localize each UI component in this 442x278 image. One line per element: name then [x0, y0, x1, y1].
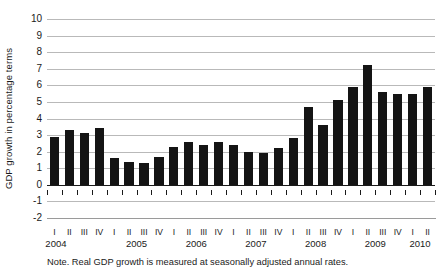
y-tick-label: 9 — [36, 31, 42, 41]
year-label: 2010 — [410, 238, 431, 250]
year-label: 2004 — [45, 238, 66, 250]
bar — [110, 158, 119, 185]
quarter-label: II — [365, 227, 370, 238]
quarter-label: I — [411, 227, 413, 238]
y-tick-label: 0 — [36, 180, 42, 190]
x-tick — [151, 190, 152, 195]
x-tick — [286, 190, 287, 195]
x-tick — [226, 190, 227, 195]
y-tick-label: 2 — [36, 147, 42, 157]
plot-area: 109876543210-1-2 — [47, 19, 435, 218]
quarter-label: II — [246, 227, 251, 238]
x-tick — [137, 190, 138, 195]
quarter-label: I — [232, 227, 234, 238]
y-tick-label: 8 — [36, 47, 42, 57]
bar — [318, 125, 327, 185]
x-tick — [256, 190, 257, 195]
bar — [169, 147, 178, 185]
bar — [274, 148, 283, 184]
x-tick — [196, 190, 197, 195]
x-tick — [331, 190, 332, 195]
year-label: 2008 — [305, 238, 326, 250]
y-tick-label: 3 — [36, 130, 42, 140]
bar — [124, 162, 133, 185]
x-tick — [390, 190, 391, 195]
quarter-label: IV — [394, 227, 402, 238]
x-tick — [420, 190, 421, 195]
quarter-label: IV — [95, 227, 103, 238]
bar — [378, 92, 387, 185]
bar — [65, 130, 74, 185]
bar — [304, 107, 313, 185]
y-tick-label: 5 — [36, 97, 42, 107]
x-tick — [301, 190, 302, 195]
bar — [50, 137, 59, 185]
x-tick — [435, 190, 436, 195]
y-tick-label: 10 — [31, 14, 42, 24]
x-tick — [92, 190, 93, 195]
y-tick-label: 7 — [36, 64, 42, 74]
quarter-label: I — [292, 227, 294, 238]
quarter-label: II — [425, 227, 430, 238]
x-axis-year-labels: 2004200520062007200820092010 — [47, 238, 435, 252]
bar — [363, 65, 372, 184]
x-tick — [316, 190, 317, 195]
quarter-label: III — [81, 227, 88, 238]
quarter-label: III — [320, 227, 327, 238]
quarter-label: I — [53, 227, 55, 238]
bar — [333, 100, 342, 185]
bar — [95, 128, 104, 184]
quarter-label: IV — [155, 227, 163, 238]
y-tick-label: 1 — [36, 163, 42, 173]
bar — [259, 153, 268, 185]
chart-note: Note. Real GDP growth is measured at sea… — [47, 256, 348, 268]
x-tick — [405, 190, 406, 195]
y-axis-title-label: GDP growth in percentage terms — [4, 47, 15, 188]
x-tick — [345, 190, 346, 195]
x-axis-baseline — [47, 218, 436, 219]
quarter-label: IV — [274, 227, 282, 238]
quarter-label: I — [113, 227, 115, 238]
x-tick — [375, 190, 376, 195]
year-label: 2007 — [245, 238, 266, 250]
quarter-label: III — [260, 227, 267, 238]
bars — [47, 19, 435, 218]
bar — [154, 157, 163, 185]
x-tick — [360, 190, 361, 195]
quarter-label: III — [200, 227, 207, 238]
x-axis-ticks — [47, 190, 435, 196]
bar — [184, 142, 193, 185]
year-label: 2006 — [186, 238, 207, 250]
bar — [229, 145, 238, 185]
bar — [289, 138, 298, 184]
bar — [214, 142, 223, 185]
quarter-label: III — [379, 227, 386, 238]
x-tick — [271, 190, 272, 195]
quarter-label: II — [306, 227, 311, 238]
bar — [80, 133, 89, 184]
y-tick-label: 6 — [36, 80, 42, 90]
quarter-label: II — [186, 227, 191, 238]
quarter-label: III — [140, 227, 147, 238]
year-label: 2005 — [126, 238, 147, 250]
x-tick — [241, 190, 242, 195]
year-label: 2009 — [365, 238, 386, 250]
quarter-label: II — [127, 227, 132, 238]
x-tick — [62, 190, 63, 195]
quarter-label: I — [352, 227, 354, 238]
quarter-label: IV — [215, 227, 223, 238]
bar — [393, 94, 402, 185]
gdp-growth-bar-chart: GDP growth in percentage terms 109876543… — [0, 0, 442, 278]
x-tick — [166, 190, 167, 195]
bar — [423, 87, 432, 185]
y-tick-label: 4 — [36, 114, 42, 124]
bar — [244, 152, 253, 185]
quarter-label: IV — [334, 227, 342, 238]
x-tick — [211, 190, 212, 195]
y-axis-title: GDP growth in percentage terms — [0, 18, 18, 218]
x-tick — [107, 190, 108, 195]
quarter-label: I — [173, 227, 175, 238]
bar — [139, 163, 148, 185]
bar — [199, 145, 208, 185]
bar — [408, 94, 417, 185]
